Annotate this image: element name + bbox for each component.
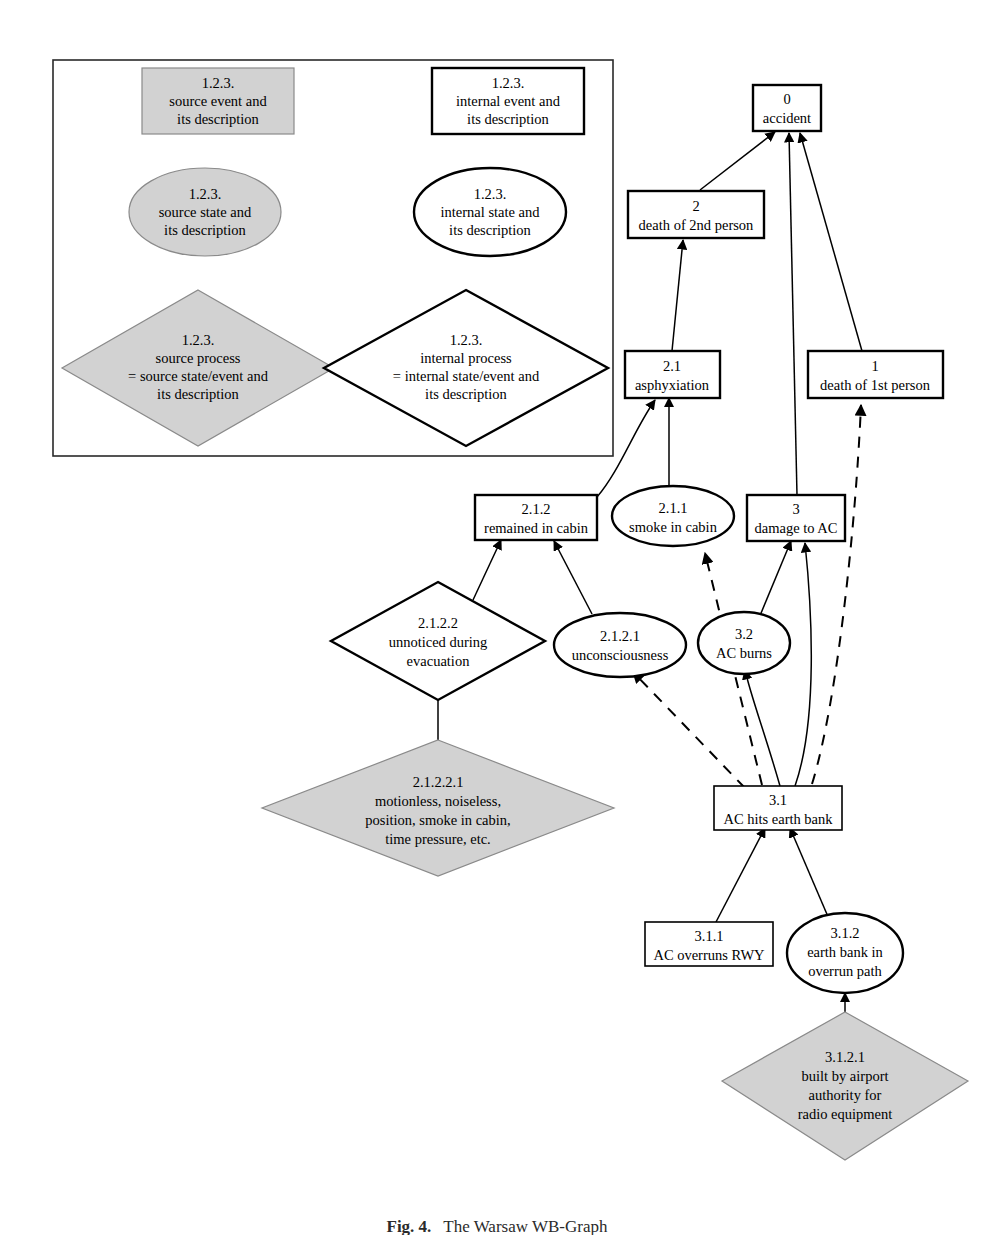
legend-internal-process-line-0: 1.2.3. (450, 332, 483, 348)
edge-1-to-0 (800, 133, 862, 351)
node-3p1p2p1-line-3: radio equipment (798, 1106, 893, 1122)
node-3p1-label: AC hits earth bank (723, 811, 833, 827)
legend-source-process-line-2: = source state/event and (128, 368, 269, 384)
legend-source-state-line-1: source state and (159, 204, 252, 220)
node-2p1p2p2p1-motionless-noiseless[interactable]: 2.1.2.2.1 motionless, noiseless, positio… (262, 740, 614, 876)
edge-2p1-to-2 (672, 240, 683, 351)
node-2p1p2-number: 2.1.2 (522, 501, 551, 517)
node-2p1p1-shape[interactable] (612, 486, 734, 546)
node-1-death-of-1st-person[interactable]: 1 death of 1st person (808, 351, 943, 398)
node-3p1p2p1-line-2: authority for (809, 1087, 882, 1103)
node-2p1p2p2-line-1: unnoticed during (389, 634, 488, 650)
node-2p1p1-number: 2.1.1 (659, 500, 688, 516)
node-3p1p2-earth-bank-in-overrun-path[interactable]: 3.1.2 earth bank in overrun path (787, 913, 903, 993)
node-3p2-number: 3.2 (735, 626, 753, 642)
node-3p1p2p1-shape[interactable] (722, 1012, 968, 1160)
node-3p1p2-line-2: overrun path (808, 963, 882, 979)
edge-3-to-0 (789, 133, 797, 495)
legend-item-internal-state: 1.2.3. internal state and its descriptio… (414, 168, 566, 256)
node-2-number: 2 (692, 198, 699, 214)
node-2-death-of-2nd-person[interactable]: 2 death of 2nd person (628, 191, 764, 238)
node-3p1p2p1-built-by-airport-authority[interactable]: 3.1.2.1 built by airport authority for r… (722, 1012, 968, 1160)
legend-item-source-state: 1.2.3. source state and its description (129, 168, 281, 256)
edge-3p1-to-2p1p2p1-dashed (633, 672, 745, 788)
node-1-number: 1 (871, 358, 878, 374)
node-1-label: death of 1st person (820, 377, 931, 393)
edge-3p1p1-to-3p1 (716, 828, 765, 922)
legend-internal-process-line-2: = internal state/event and (393, 368, 540, 384)
node-3p1-number: 3.1 (769, 792, 787, 808)
legend-item-internal-event: 1.2.3. internal event and its descriptio… (432, 68, 584, 134)
node-2p1p2p1-unconsciousness[interactable]: 2.1.2.1 unconsciousness (554, 613, 686, 677)
legend-source-process-line-1: source process (156, 350, 241, 366)
legend-source-state-line-2: its description (164, 222, 247, 238)
node-2p1-number: 2.1 (663, 358, 681, 374)
node-3p1p2p1-line-1: built by airport (802, 1068, 889, 1084)
node-2p1p2p1-shape[interactable] (554, 613, 686, 677)
legend-item-internal-process: 1.2.3. internal process = internal state… (324, 290, 608, 446)
legend-source-event-line-1: source event and (169, 93, 267, 109)
caption-line: Fig. 4. The Warsaw WB-Graph (387, 1217, 608, 1235)
legend-source-event-line-2: its description (177, 111, 260, 127)
edge-3p1p2-to-3p1 (790, 828, 832, 926)
node-2p1-asphyxiation[interactable]: 2.1 asphyxiation (625, 351, 720, 398)
legend-source-event-line-0: 1.2.3. (202, 75, 235, 91)
edge-2-to-0 (700, 132, 775, 190)
node-2p1p2p2p1-line-1: motionless, noiseless, (375, 793, 501, 809)
node-2p1p2p2-line-2: evacuation (407, 653, 471, 669)
node-2p1p2p2p1-line-3: time pressure, etc. (385, 831, 491, 847)
legend-source-process-line-3: its description (157, 386, 240, 402)
legend-internal-state-line-2: its description (449, 222, 532, 238)
edge-3p1-to-3 (795, 543, 811, 786)
edge-3p1-to-1-dashed (812, 405, 861, 784)
legend-internal-event-line-2: its description (467, 111, 550, 127)
wb-graph-canvas: 1.2.3. source event and its description … (0, 0, 994, 1235)
legend-internal-event-line-1: internal event and (456, 93, 561, 109)
node-2p1p2p2-number: 2.1.2.2 (418, 615, 458, 631)
figure-caption: Fig. 4. The Warsaw WB-Graph (387, 1217, 608, 1235)
node-3p1p2-line-1: earth bank in (807, 944, 883, 960)
legend-item-source-event: 1.2.3. source event and its description (142, 68, 294, 134)
node-0-accident[interactable]: 0 accident (753, 85, 821, 131)
edge-3p1-to-3p2 (745, 670, 780, 786)
node-3p1-ac-hits-earth-bank[interactable]: 3.1 AC hits earth bank (714, 786, 842, 830)
node-3p1p2p1-number: 3.1.2.1 (825, 1049, 865, 1065)
node-3-number: 3 (792, 501, 799, 517)
edge-2p1p2-to-2p1 (597, 400, 655, 497)
node-2p1-label: asphyxiation (635, 377, 710, 393)
edge-2p1p2p2-to-2p1p2 (473, 540, 501, 600)
node-layer: 0 accident 2 death of 2nd person 1 death… (262, 85, 968, 1160)
node-3p2-ac-burns[interactable]: 3.2 AC burns (698, 612, 790, 674)
legend-internal-process-line-1: internal process (420, 350, 512, 366)
node-2p1p2p2p1-line-2: position, smoke in cabin, (365, 812, 510, 828)
node-3p1p1-number: 3.1.1 (695, 928, 724, 944)
node-3p1p1-label: AC overruns RWY (653, 947, 765, 963)
legend-internal-state-line-0: 1.2.3. (474, 186, 507, 202)
legend-internal-event-line-0: 1.2.3. (492, 75, 525, 91)
node-0-label: accident (763, 110, 811, 126)
edge-2p1p2p1-to-2p1p2 (554, 541, 592, 614)
legend-source-state-line-0: 1.2.3. (189, 186, 222, 202)
node-2p1p1-label: smoke in cabin (629, 519, 718, 535)
edge-layer (438, 132, 862, 1012)
node-2p1p2p2-unnoticed-during-evacuation[interactable]: 2.1.2.2 unnoticed during evacuation (331, 582, 545, 700)
legend-item-source-process: 1.2.3. source process = source state/eve… (62, 290, 334, 446)
node-0-number: 0 (783, 91, 790, 107)
legend-source-process-line-0: 1.2.3. (182, 332, 215, 348)
node-2-label: death of 2nd person (639, 217, 755, 233)
caption-figure-number: Fig. 4. (387, 1217, 432, 1235)
node-3p2-shape[interactable] (698, 612, 790, 674)
node-2p1p2p1-label: unconsciousness (572, 647, 669, 663)
node-2p1p1-smoke-in-cabin[interactable]: 2.1.1 smoke in cabin (612, 486, 734, 546)
node-3p1p2-number: 3.1.2 (831, 925, 860, 941)
legend-internal-state-line-1: internal state and (440, 204, 540, 220)
node-2p1p2-remained-in-cabin[interactable]: 2.1.2 remained in cabin (475, 495, 597, 540)
node-3p1p1-ac-overruns-rwy[interactable]: 3.1.1 AC overruns RWY (645, 922, 773, 966)
legend-panel: 1.2.3. source event and its description … (53, 60, 613, 456)
node-2p1p2-label: remained in cabin (484, 520, 589, 536)
edge-3p2-to-3 (759, 541, 791, 618)
node-3p2-label: AC burns (716, 645, 772, 661)
figure-page: 1.2.3. source event and its description … (0, 0, 994, 1235)
node-3-damage-to-ac[interactable]: 3 damage to AC (747, 495, 845, 541)
legend-internal-process-line-3: its description (425, 386, 508, 402)
